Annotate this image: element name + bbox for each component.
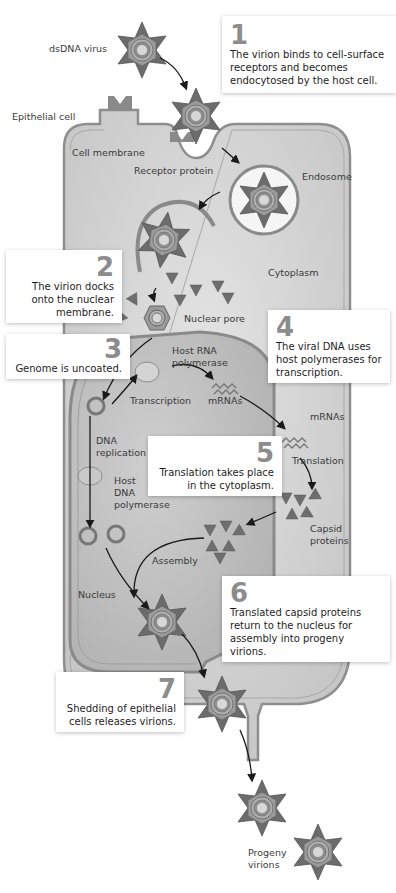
progeny-virion-2 [294,824,342,880]
label-translation: Translation [292,456,344,467]
step-2-callout: 2 The virion docks onto the nuclear memb… [6,250,122,323]
label-nuclear-pore: Nuclear pore [184,314,245,325]
label-mrnas-1: mRNAs [208,396,242,407]
label-endosome: Endosome [302,172,352,183]
step-2-number: 2 [14,254,114,280]
label-dna-replication-2: replication [96,448,146,459]
label-dna-replication-1: DNA [96,436,117,447]
label-host-dna-polymerase-3: polymerase [114,500,170,511]
label-receptor-protein: Receptor protein [134,166,213,177]
step-3-number: 3 [14,336,122,362]
progeny-virion-1 [238,780,286,836]
label-host-rna-polymerase-1: Host RNA [172,346,217,357]
label-host-dna-polymerase-1: Host [114,476,136,487]
step-7-callout: 7 Shedding of epithelial cells releases … [56,672,184,732]
label-host-rna-polymerase-2: polymerase [172,358,228,369]
step-6-number: 6 [230,580,382,606]
label-host-dna-polymerase-2: DNA [114,488,135,499]
step-7-text: Shedding of epithelial cells releases vi… [64,702,176,728]
label-epithelial-cell: Epithelial cell [12,112,75,123]
label-capsid-proteins-2: proteins [310,536,349,547]
step-6-text: Translated capsid proteins return to the… [230,606,382,658]
step-7-number: 7 [64,676,176,702]
step-4-text: The viral DNA uses host polymerases for … [276,340,382,379]
dsdna-virus [118,22,166,78]
label-mrnas-2: mRNAs [310,412,344,423]
host-rna-polymerase [135,362,159,382]
label-assembly: Assembly [152,556,198,567]
step-6-callout: 6 Translated capsid proteins return to t… [222,576,390,662]
step-2-text: The virion docks onto the nuclear membra… [14,280,114,319]
label-cytoplasm: Cytoplasm [268,268,319,279]
label-progeny-virions-1: Progeny [248,848,287,859]
label-nucleus: Nucleus [78,590,116,601]
step-5-text: Translation takes place in the cytoplasm… [156,466,274,492]
step-3-text: Genome is uncoated. [14,362,122,375]
step-4-number: 4 [276,314,382,340]
label-cell-membrane: Cell membrane [72,148,145,159]
step-1-callout: 1 The virion binds to cell-surface recep… [222,16,396,93]
receptor-protein-surface [108,96,132,110]
step-3-callout: 3 Genome is uncoated. [6,334,130,379]
label-progeny-virions-2: virions [248,860,280,871]
docked-virion [144,306,170,330]
step-1-text: The virion binds to cell-surface recepto… [230,48,388,87]
label-capsid-proteins-1: Capsid [310,524,342,535]
step-4-callout: 4 The viral DNA uses host polymerases fo… [268,310,390,383]
receptor-protein-pit [170,132,194,142]
step-5-callout: 5 Translation takes place in the cytopla… [148,436,282,496]
label-dsdna-virus: dsDNA virus [49,44,107,55]
label-transcription: Transcription [130,396,191,407]
step-5-number: 5 [156,440,274,466]
step-1-number: 1 [230,22,388,48]
